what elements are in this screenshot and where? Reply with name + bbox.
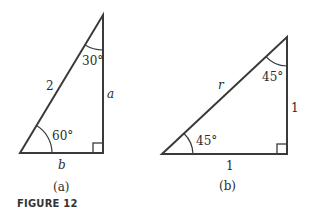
angle-label-30: 30°	[82, 54, 103, 68]
side-label-a: a	[107, 87, 114, 101]
angle-arc-45-top	[266, 57, 287, 66]
angle-label-45-bottom: 45°	[196, 134, 217, 148]
right-angle-marker-a	[93, 143, 103, 153]
panel-label-b: (b)	[219, 179, 236, 193]
hypotenuse-label-a: 2	[46, 79, 54, 93]
angle-label-60: 60°	[52, 129, 73, 143]
base-label-1: 1	[226, 159, 234, 173]
figure-12: 30° 60° 2 a b (a) 45° 45° r 1 1 (b) FIGU…	[0, 0, 309, 222]
triangle-b-outline	[162, 37, 287, 154]
base-label-b: b	[58, 158, 66, 172]
hypotenuse-label-r: r	[218, 78, 225, 92]
triangle-a: 30° 60° 2 a b (a)	[20, 15, 114, 194]
angle-arc-30	[85, 45, 103, 50]
angle-arc-60	[37, 126, 53, 153]
right-angle-marker-b	[277, 144, 287, 154]
triangle-b: 45° 45° r 1 1 (b)	[162, 37, 299, 193]
figure-caption: FIGURE 12	[17, 198, 78, 209]
side-label-1-vertical: 1	[291, 101, 299, 115]
angle-label-45-top: 45°	[262, 70, 283, 84]
angle-arc-45-bottom	[184, 134, 193, 155]
panel-label-a: (a)	[53, 180, 70, 194]
